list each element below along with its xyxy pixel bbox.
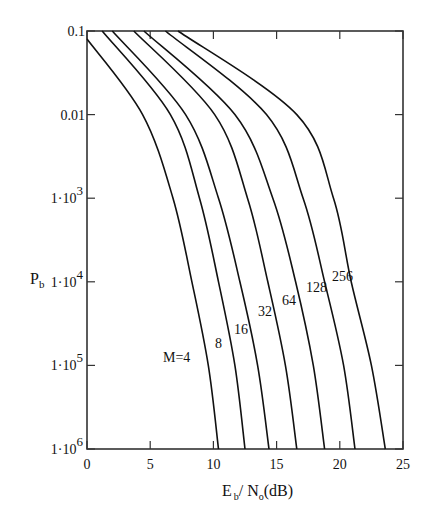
x-tick-label: 20 [333,457,347,472]
axis-ticks: 05101520250.10.011·1031·1041·1051·106 [51,24,410,472]
curve-label: 8 [215,336,222,351]
y-tick-label: 0.01 [61,108,86,123]
curve-label: 256 [332,269,353,284]
x-tick-label: 5 [147,457,154,472]
curve-label: M=4 [163,350,190,365]
x-tick-label: 10 [206,457,220,472]
x-tick-label: 25 [396,457,410,472]
curve-label: 16 [234,322,248,337]
y-axis-label-main: P [30,270,39,287]
y-tick-label: 1·105 [51,350,83,373]
curve-m-4 [87,39,219,449]
curve-m-64 [144,31,325,449]
curves [87,31,385,449]
x-axis-label: Eb/ No(dB) [222,482,293,502]
x-tick-label: 0 [84,457,91,472]
x-axis-label-unit: (dB) [264,482,293,500]
curve-label: 128 [306,280,327,295]
y-axis-label-sub: b [39,278,45,290]
curve-m-8 [102,31,245,449]
curve-label: 64 [282,293,296,308]
x-tick-label: 15 [270,457,284,472]
y-axis-label: Pb [30,270,45,290]
y-tick-label: 1·106 [51,434,84,457]
curve-label: 32 [258,304,272,319]
ber-chart: 05101520250.10.011·1031·1041·1051·106 M=… [0,0,433,522]
x-axis-label-slash: / N [239,482,259,499]
y-tick-label: 1·104 [51,267,84,290]
y-tick-label: 1·103 [51,183,83,206]
x-axis-label-E: E [222,482,232,499]
y-tick-label: 0.1 [68,24,86,39]
